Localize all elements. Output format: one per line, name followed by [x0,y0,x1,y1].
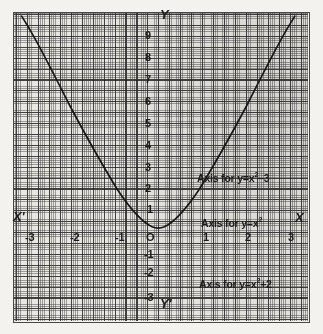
plot-ink-layer [0,0,323,334]
y-tick-7: 7 [145,73,151,85]
x-tick-minus-2: -2 [70,231,79,243]
y-axis-label-top: Y [160,7,168,22]
y-tick-4: 4 [145,139,151,151]
y-tick-8: 8 [145,51,151,63]
x-tick-1: 1 [203,231,209,243]
x-tick-minus-3: -3 [25,231,34,243]
y-axis-label-bottom: Y' [160,296,171,311]
annotation-axis-y-x2-plus-2: Axis for y=x2+2 [199,277,272,290]
y-tick-9: 9 [145,29,151,41]
annotation-tail-1: –3 [258,172,269,184]
scanned-figure: Y Y' X' X 9 8 7 6 5 4 3 2 1 -1 -2 -3 -3 … [0,0,323,334]
x-tick-3: 3 [288,231,294,243]
annotation-tail-3: +2 [260,278,272,290]
annotation-lead-3: Axis for y=x [199,278,256,290]
y-tick-1: 1 [147,203,153,215]
annotation-lead-1: Axis for y=x [197,172,254,184]
annotation-sup-2: 2 [258,216,262,223]
x-axis-label-right: X [295,210,303,225]
x-axis-label-left: X' [13,209,24,224]
y-tick-2: 2 [145,182,151,194]
y-tick-5: 5 [145,117,151,129]
y-tick-minus-1: -1 [144,248,153,260]
origin-label: O [146,231,154,243]
annotation-axis-y-x2: Axis for y=x2 [201,216,262,229]
y-tick-6: 6 [145,95,151,107]
y-tick-minus-3: -3 [144,291,153,303]
y-tick-3: 3 [145,161,151,173]
annotation-axis-y-x2-minus-3: Axis for y=x2–3 [197,171,269,184]
x-tick-minus-1: -1 [115,231,124,243]
y-tick-minus-2: -2 [144,266,153,278]
x-tick-2: 2 [245,231,251,243]
annotation-lead-2: Axis for y=x [201,217,258,229]
